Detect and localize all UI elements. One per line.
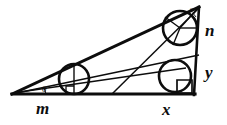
geometry-figure: m x y n θ α [0,0,227,125]
geometry-diagram [0,0,227,125]
lower-right-incircle-group [159,60,192,93]
triangle-outline [12,7,199,95]
label-base-left-segment: m [36,100,49,117]
upper-right-incircle-group [163,8,198,45]
lower-right-incircle [159,60,191,92]
label-right-lower-segment: y [205,64,213,81]
label-top-vertex-angle: α [190,6,194,13]
triangle-hypotenuse-edge [12,7,199,94]
label-right-upper-segment: n [205,22,214,39]
label-base-right-segment: x [162,101,171,118]
angle-arcs [44,12,196,94]
label-left-vertex-angle: θ [42,85,46,94]
